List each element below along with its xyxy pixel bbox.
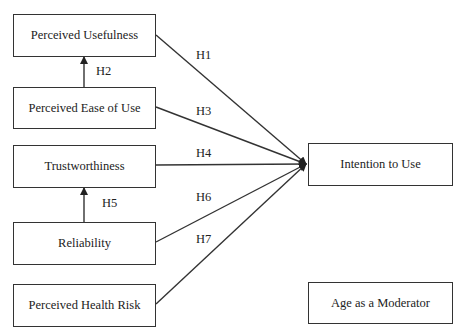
label-h5: H5 xyxy=(102,196,117,211)
h6-arrow xyxy=(156,164,306,242)
label-h2: H2 xyxy=(96,64,111,79)
construct-intention-to-use: Intention to Use xyxy=(308,143,453,186)
construct-perceived-usefulness: Perceived Usefulness xyxy=(13,14,156,57)
label-h3: H3 xyxy=(196,104,211,119)
label-h1: H1 xyxy=(196,48,211,63)
label-h6: H6 xyxy=(196,190,211,205)
h1-arrow xyxy=(156,35,306,164)
h3-arrow xyxy=(156,107,306,164)
construct-trustworthiness: Trustworthiness xyxy=(13,145,156,188)
label-h7: H7 xyxy=(196,232,211,247)
h4-arrow xyxy=(156,164,306,165)
label-h4: H4 xyxy=(196,146,211,161)
construct-perceived-health-risk: Perceived Health Risk xyxy=(13,284,156,327)
construct-age-moderator: Age as a Moderator xyxy=(308,282,453,324)
construct-perceived-ease-of-use: Perceived Ease of Use xyxy=(13,87,156,129)
construct-reliability: Reliability xyxy=(13,222,156,265)
h7-arrow xyxy=(156,164,306,304)
